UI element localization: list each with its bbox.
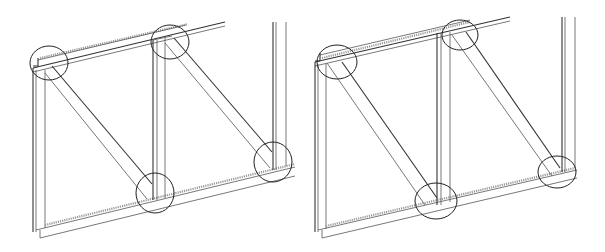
- top-chord: [315, 17, 510, 62]
- joint-circle-right-4: [538, 156, 576, 188]
- diagonal-brace-1: [342, 62, 437, 198]
- top-chord: [33, 22, 225, 68]
- joint-circle-right-2: [442, 20, 478, 50]
- truss-diagram-figure: [0, 0, 605, 252]
- diagonal-brace-2: [466, 32, 560, 168]
- joint-circle-left-1: [30, 46, 68, 80]
- top-chord-hatch: [322, 22, 470, 58]
- joint-circle-right-1: [317, 45, 357, 79]
- diagonal-brace-2: [174, 38, 272, 152]
- bottom-chord-hatch: [326, 168, 575, 226]
- bottom-chord: [318, 170, 577, 230]
- diagonal-brace-1: [52, 66, 152, 184]
- truss-right: [315, 17, 577, 238]
- truss-left: [33, 22, 295, 238]
